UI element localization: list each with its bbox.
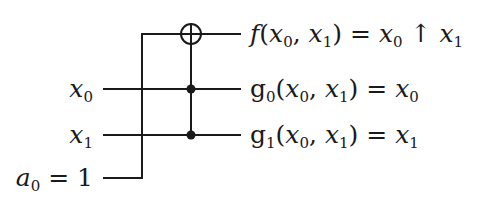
- var: x: [269, 19, 283, 48]
- control-dot-x1-icon: [187, 131, 196, 140]
- comma: ,: [309, 74, 317, 103]
- sub: 1: [409, 134, 419, 152]
- var: x: [69, 74, 83, 103]
- var: x: [395, 74, 409, 103]
- paren: (: [276, 120, 286, 149]
- paren: ): [349, 120, 359, 149]
- fn: f: [250, 19, 259, 48]
- sub: 0: [266, 88, 276, 106]
- sub: 1: [454, 33, 464, 51]
- var: x: [285, 74, 299, 103]
- sub: 1: [83, 134, 93, 152]
- paren: ): [349, 74, 359, 103]
- var: x: [69, 120, 83, 149]
- equals: =: [350, 19, 371, 48]
- sub: 0: [299, 88, 309, 106]
- paren: (: [276, 74, 286, 103]
- sub: 0: [409, 88, 419, 106]
- equals: =: [366, 120, 387, 149]
- nand-arrow-icon: ↑: [410, 19, 431, 48]
- output-label-g1: g1(x0, x1) = x1: [250, 122, 419, 151]
- comma: ,: [309, 120, 317, 149]
- var: a: [16, 163, 31, 192]
- suffix: = 1: [40, 163, 93, 192]
- output-label-g0: g0(x0, x1) = x0: [250, 76, 419, 105]
- sub: 1: [339, 88, 349, 106]
- sub: 1: [339, 134, 349, 152]
- paren: (: [259, 19, 269, 48]
- control-dot-x0-icon: [187, 85, 196, 94]
- equals: =: [366, 74, 387, 103]
- var: x: [379, 19, 393, 48]
- var: x: [325, 120, 339, 149]
- sub: 0: [283, 33, 293, 51]
- sub: 1: [323, 33, 333, 51]
- comma: ,: [293, 19, 301, 48]
- sub: 0: [31, 177, 41, 195]
- var: x: [285, 120, 299, 149]
- fn: g: [250, 120, 266, 149]
- input-label-a0: a0 = 1: [16, 165, 93, 194]
- output-label-f: f(x0, x1) = x0 ↑ x1: [250, 21, 463, 50]
- var: x: [439, 19, 453, 48]
- var: x: [309, 19, 323, 48]
- paren: ): [332, 19, 342, 48]
- sub: 0: [299, 134, 309, 152]
- var: x: [325, 74, 339, 103]
- fn: g: [250, 74, 266, 103]
- input-label-x0: x0: [69, 76, 93, 105]
- var: x: [395, 120, 409, 149]
- ancilla-wire: [104, 34, 240, 178]
- sub: 1: [266, 134, 276, 152]
- input-label-x1: x1: [69, 122, 93, 151]
- sub: 0: [83, 88, 93, 106]
- sub: 0: [393, 33, 403, 51]
